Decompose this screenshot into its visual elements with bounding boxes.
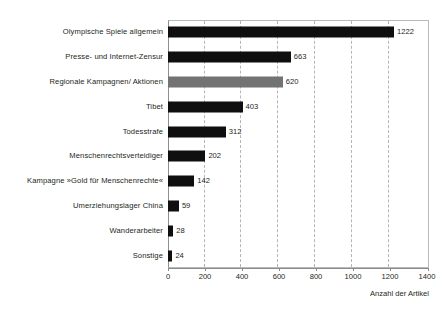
category-label: Menschenrechtsverteidiger (69, 151, 163, 161)
x-tick-label: 200 (199, 272, 212, 282)
x-tick-label: 0 (166, 272, 170, 282)
x-tick-mark (428, 268, 429, 271)
bar-row: Regionale Kampagnen/ Aktionen 620 (0, 70, 446, 95)
x-tick-mark (242, 268, 243, 271)
category-label: Regionale Kampagnen/ Aktionen (49, 77, 163, 87)
x-tick-mark (205, 268, 206, 271)
x-tick-mark (279, 268, 280, 271)
bar (168, 52, 291, 63)
value-label: 28 (173, 226, 184, 236)
value-label: 59 (179, 201, 190, 211)
x-tick-mark (390, 268, 391, 271)
category-label: Umerziehungslager China (73, 201, 163, 211)
bar-row: Kampagne »Gold für Menschenrechte« 142 (0, 169, 446, 194)
x-tick-label: 1200 (382, 272, 399, 282)
bar (168, 27, 394, 38)
bar-chart: Olympische Spiele allgemein 1222 Presse-… (0, 0, 446, 316)
x-tick-label: 400 (236, 272, 249, 282)
value-label: 403 (243, 102, 259, 112)
bar-row: Sonstige 24 (0, 243, 446, 268)
bar-row: Olympische Spiele allgemein 1222 (0, 20, 446, 45)
category-label: Todesstrafe (123, 127, 163, 137)
x-tick-mark (353, 268, 354, 271)
bar (168, 151, 205, 162)
bar-row: Umerziehungslager China 59 (0, 194, 446, 219)
bar-row: Todesstrafe 312 (0, 119, 446, 144)
category-label: Tibet (146, 102, 163, 112)
bar (168, 200, 179, 211)
value-label: 24 (172, 251, 183, 261)
x-tick-label: 1000 (345, 272, 362, 282)
x-tick-mark (316, 268, 317, 271)
category-label: Sonstige (133, 251, 163, 261)
value-label: 620 (283, 77, 299, 87)
bar-row: Menschenrechtsverteidiger 202 (0, 144, 446, 169)
bar-row: Wanderarbeiter 28 (0, 218, 446, 243)
bar (168, 126, 226, 137)
bar (168, 101, 243, 112)
x-tick-label: 600 (273, 272, 286, 282)
value-label: 142 (194, 176, 210, 186)
category-label: Kampagne »Gold für Menschenrechte« (27, 176, 163, 186)
x-axis-tick-labels: 0 200 400 600 800 1000 1200 1400 (0, 272, 446, 284)
x-tick-label: 1400 (419, 272, 436, 282)
bar-rows: Olympische Spiele allgemein 1222 Presse-… (0, 20, 446, 268)
category-label: Presse- und Internet-Zensur (65, 52, 163, 62)
value-label: 663 (291, 52, 307, 62)
bar (168, 176, 194, 187)
category-label: Wanderarbeiter (110, 226, 163, 236)
x-axis-title: Anzahl der Artikel (370, 289, 429, 299)
category-label: Olympische Spiele allgemein (63, 27, 163, 37)
value-label: 1222 (394, 27, 414, 37)
bar-row: Presse- und Internet-Zensur 663 (0, 45, 446, 70)
x-tick-label: 800 (310, 272, 323, 282)
bar-row: Tibet 403 (0, 94, 446, 119)
value-label: 202 (205, 151, 221, 161)
value-label: 312 (226, 127, 242, 137)
x-tick-mark (168, 268, 169, 271)
bar-highlighted (168, 76, 283, 87)
clipped-title-remnant (0, 0, 446, 3)
